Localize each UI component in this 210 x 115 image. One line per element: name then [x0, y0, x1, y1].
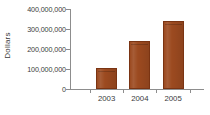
bar-slot	[129, 9, 150, 89]
x-axis-tick-label: 2005	[164, 94, 181, 103]
y-axis-tick-label: 200,000,000	[27, 45, 66, 54]
y-axis-title: Dollars	[0, 0, 14, 90]
bar-2004	[129, 41, 150, 89]
bar-2003	[96, 68, 117, 89]
bar-slot	[163, 9, 184, 89]
y-axis-tick-label: 300,000,000	[27, 25, 66, 34]
x-axis-tick-mark	[123, 90, 124, 93]
x-axis-tick-labels: 200320042005	[71, 94, 204, 108]
y-axis-tick-labels: 0100,000,000200,000,000300,000,000400,00…	[14, 0, 68, 90]
x-axis-tick-mark	[156, 90, 157, 93]
plot-area	[71, 9, 204, 89]
x-axis-tick-mark	[90, 90, 91, 93]
x-axis-tick-label: 2004	[131, 94, 148, 103]
y-axis-tick-mark	[66, 69, 70, 70]
x-axis-tick-label: 2003	[98, 94, 115, 103]
y-axis-title-text: Dollars	[3, 32, 12, 58]
y-axis-tick-mark	[66, 9, 70, 10]
x-axis-tick-mark	[190, 90, 191, 93]
y-axis-tick-mark	[66, 29, 70, 30]
y-axis-tick-label: 400,000,000	[27, 5, 66, 14]
bar-slot	[96, 9, 117, 89]
bar-2005	[163, 21, 184, 89]
y-axis-tick-mark	[66, 89, 70, 90]
y-axis-tick-mark	[66, 49, 70, 50]
y-axis-tick-label: 100,000,000	[27, 65, 66, 74]
bar-chart: Dollars 0100,000,000200,000,000300,000,0…	[0, 0, 210, 115]
